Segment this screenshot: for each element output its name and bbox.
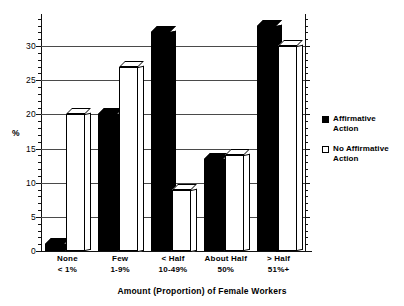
x-axis-tick-label-line: About Half [205,254,247,265]
bar-hollow-3 [225,155,244,251]
bar-front-face [119,67,138,252]
x-axis-tick-label: > Half51%+ [267,254,290,275]
bar-group [94,14,147,251]
x-axis-tick-label-line: 50% [205,265,247,276]
y-axis-minor-tick-right [305,87,308,88]
legend-item[interactable]: No AffirmativeAction [322,144,404,164]
y-axis-tick-label: 25 [26,75,36,85]
y-axis-minor-tick-right [305,190,308,191]
bar-front-face [45,244,64,251]
y-axis-minor-tick-right [305,135,308,136]
bar-filled-2 [151,32,170,251]
y-axis-tick-label: 15 [26,144,36,154]
bar-front-face [257,26,276,252]
bar-side-face [191,188,197,251]
y-axis-tick [36,251,41,252]
y-axis-minor-tick-right [305,231,308,232]
bar-hollow-0 [66,114,85,251]
x-axis-tick-label: None< 1% [57,254,78,275]
y-axis-minor-tick-right [305,203,308,204]
legend-label-line: Action [333,124,376,134]
x-axis-tick-label-line: Few [110,254,129,265]
y-axis-minor-tick-right [305,244,308,245]
y-axis-minor-tick-right [305,108,308,109]
y-axis-minor-tick-right [305,19,308,20]
bar-chart-figure: 051015202530 % None< 1%Few1-9%< Half10-4… [0,0,404,306]
bar-front-face [66,114,85,251]
x-axis-tick-label-line: > Half [267,254,290,265]
y-axis-tick-label: 10 [26,178,36,188]
x-axis-tick-label-line: 1-9% [110,265,129,276]
y-axis-minor-tick-right [305,73,308,74]
x-axis-tick-label-line: 51%+ [267,265,290,276]
y-axis-minor-tick-right [305,101,308,102]
x-axis-tick-label: About Half50% [205,254,247,275]
bar-front-face [98,114,117,251]
bar-filled-0 [45,244,64,251]
bar-group [41,14,94,251]
legend-label-line: No Affirmative [333,144,389,154]
bar-side-face [244,154,250,251]
bar-hollow-2 [172,190,191,252]
y-axis-minor-tick-right [305,196,308,197]
bar-side-face [297,45,303,251]
y-axis-minor-tick-right [305,210,308,211]
y-axis-minor-tick-right [305,26,308,27]
bar-front-face [172,190,191,252]
legend-label: AffirmativeAction [333,114,376,134]
y-axis-minor-tick-right [305,237,308,238]
y-axis-minor-tick-right [305,32,308,33]
x-axis-tick-label-line: < Half [159,254,188,265]
y-axis-tick-label: 20 [26,109,36,119]
y-axis-tick-right [305,149,310,150]
legend-swatch-filled [322,116,329,123]
legend-item[interactable]: AffirmativeAction [322,114,404,134]
x-axis-title: Amount (Proportion) of Female Workers [0,286,404,296]
y-axis-minor-tick-right [305,224,308,225]
y-axis-minor-tick-right [305,176,308,177]
bar-side-face [138,65,144,251]
bar-filled-1 [98,114,117,251]
y-axis-minor-tick-right [305,155,308,156]
bar-group [147,14,200,251]
x-axis-tick-labels: None< 1%Few1-9%< Half10-49%About Half50%… [41,254,305,282]
y-axis-minor-tick-right [305,94,308,95]
bar-front-face [225,155,244,251]
y-axis-tick-right [305,183,310,184]
y-axis-tick-right [305,46,310,47]
y-axis-tick-right [305,217,310,218]
y-axis-minor-tick-right [305,162,308,163]
y-axis-minor-tick-right [305,53,308,54]
bar-hollow-1 [119,67,138,252]
bar-group [199,14,252,251]
y-axis-tick-label: 30 [26,41,36,51]
y-axis-minor-tick-right [305,128,308,129]
x-axis-tick-label-line: < 1% [57,265,78,276]
x-axis-tick-label-line: 10-49% [159,265,188,276]
legend-swatch-hollow [322,146,329,153]
bar-front-face [204,159,223,251]
bar-filled-4 [257,26,276,252]
bar-side-face [85,113,91,251]
y-axis-tick-right [305,251,310,252]
bar-filled-3 [204,159,223,251]
plot-area [41,14,305,251]
bar-hollow-4 [278,46,297,251]
bar-front-face [278,46,297,251]
y-axis-minor-tick-right [305,142,308,143]
y-axis-tick-right [305,114,310,115]
x-axis-tick-label: < Half10-49% [159,254,188,275]
y-axis-title: % [12,128,20,138]
y-axis-minor-tick-right [305,67,308,68]
legend-label-line: Affirmative [333,114,376,124]
legend-label: No AffirmativeAction [333,144,389,164]
y-axis-minor-tick-right [305,169,308,170]
bar-group [252,14,305,251]
y-axis-tick-right [305,80,310,81]
legend-label-line: Action [333,154,389,164]
y-axis-minor-tick-right [305,121,308,122]
bar-front-face [151,32,170,251]
y-axis-minor-tick-right [305,39,308,40]
x-axis-tick-label: Few1-9% [110,254,129,275]
legend: AffirmativeActionNo AffirmativeAction [322,114,404,174]
